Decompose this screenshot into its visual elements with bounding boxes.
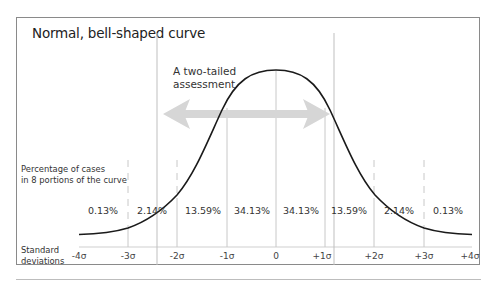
percentage-label-line2: in 8 portions of the curve [21, 175, 127, 186]
tick-minus1: -1σ [220, 251, 235, 261]
sd-label: Standard deviations [21, 245, 64, 267]
tick-plus1: +1σ [313, 251, 332, 261]
region-pct-7: 2.14% [384, 205, 414, 216]
tick-plus3: +3σ [415, 251, 434, 261]
region-pct-3: 13.59% [185, 205, 221, 216]
sd-label-line2: deviations [21, 256, 64, 267]
region-pct-4: 34.13% [234, 205, 270, 216]
percentage-label-line1: Percentage of cases [21, 164, 127, 175]
bell-curve-plot [0, 0, 495, 286]
region-pct-8: 0.13% [433, 205, 463, 216]
tick-minus3: -3σ [121, 251, 136, 261]
sd-label-line1: Standard [21, 245, 64, 256]
tick-plus4: +4σ [461, 251, 480, 261]
annotation-line1: A two-tailed [173, 65, 236, 78]
annotation-line2: assessment [173, 78, 236, 91]
tick-plus2: +2σ [365, 251, 384, 261]
tick-minus2: -2σ [170, 251, 185, 261]
tick-zero: 0 [273, 251, 279, 261]
tick-minus4: -4σ [72, 251, 87, 261]
region-pct-5: 34.13% [283, 205, 319, 216]
two-tailed-arrow-icon [163, 99, 330, 129]
two-tailed-annotation: A two-tailed assessment [173, 65, 236, 91]
region-pct-6: 13.59% [331, 205, 367, 216]
percentage-label: Percentage of cases in 8 portions of the… [21, 164, 127, 186]
region-pct-1: 0.13% [88, 205, 118, 216]
region-pct-2: 2.14% [137, 205, 167, 216]
